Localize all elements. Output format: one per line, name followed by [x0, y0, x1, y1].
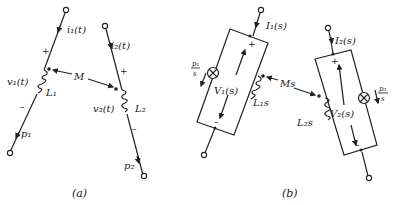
figure-b: I₁(s) I₂(s) + + V₁(s) V₂(s) L₁s L₂s Ms –…	[191, 7, 388, 200]
plus-sign: +	[120, 66, 128, 76]
voltage-2-label: V₂(s)	[330, 108, 354, 119]
terminal-icon	[102, 23, 107, 28]
circuit-box-2	[315, 25, 378, 180]
current-1-label: i₁(t)	[67, 24, 86, 35]
current-arrow-icon	[256, 22, 257, 27]
svg-text:s: s	[193, 70, 197, 78]
terminal-icon	[366, 175, 371, 180]
plus-sign: +	[331, 56, 339, 66]
terminal-icon	[325, 25, 330, 30]
initial-1-label: p₁	[21, 128, 31, 139]
current-2-label: I₂(s)	[334, 35, 356, 46]
terminal-icon	[141, 173, 146, 178]
current-2-label: i₂(t)	[111, 40, 130, 51]
voltage-1-label: v₁(t)	[7, 76, 29, 87]
inductor-1-label: L₁	[45, 87, 57, 98]
svg-text:s: s	[381, 95, 385, 103]
polarity-dot-icon	[47, 67, 51, 71]
polarity-dot-icon	[114, 87, 118, 91]
minus-sign: –	[20, 102, 25, 112]
polarity-dot-icon	[261, 74, 265, 78]
minus-sign: –	[214, 117, 219, 127]
caption-a: (a)	[72, 187, 87, 200]
source-1-value: p₁ s	[191, 60, 200, 78]
circuit-box-1	[197, 7, 268, 157]
inductor-1-label: L₁s	[252, 97, 269, 108]
plus-sign: +	[42, 46, 50, 56]
source-arrow-icon	[375, 90, 378, 103]
minus-sign: –	[132, 124, 137, 134]
inductor-2-label: L₂	[134, 103, 146, 114]
inductor-coil-icon	[122, 90, 128, 112]
voltage-2-label: v₂(t)	[93, 103, 115, 114]
terminal-icon	[7, 150, 12, 155]
terminal-icon	[201, 152, 206, 157]
plus-sign: +	[248, 39, 256, 49]
mutual-label: Ms	[279, 78, 295, 89]
svg-text:p₂: p₂	[379, 85, 386, 93]
inductor-coil-icon	[251, 76, 261, 99]
source-arrow-icon	[201, 73, 206, 86]
source-2-value: p₂ s	[378, 85, 388, 103]
minus-sign: –	[355, 140, 360, 150]
mutual-label: M	[73, 71, 85, 82]
caption-b: (b)	[282, 187, 298, 200]
voltage-1-label: V₁(s)	[214, 85, 238, 96]
polarity-dot-icon	[317, 94, 321, 98]
coupled-inductor-diagram: i₁(t) i₂(t) + + v₁(t) v₂(t) L₁ L₂ M – – …	[0, 0, 395, 205]
current-1-label: I₁(s)	[265, 20, 287, 31]
figure-a: i₁(t) i₂(t) + + v₁(t) v₂(t) L₁ L₂ M – – …	[7, 7, 147, 200]
terminal-icon	[258, 7, 263, 12]
initial-2-label: p₂	[124, 160, 134, 171]
inductor-2-label: L₂s	[296, 117, 313, 128]
terminal-icon	[63, 7, 68, 12]
svg-text:p₁: p₁	[192, 60, 199, 68]
